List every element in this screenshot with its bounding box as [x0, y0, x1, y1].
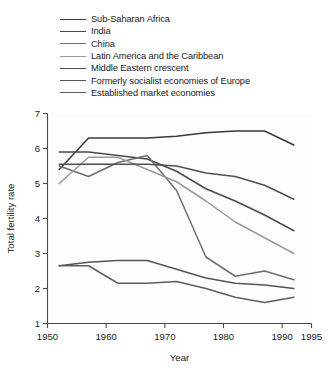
legend-item: Established market economies [60, 87, 328, 99]
legend-item: Latin America and the Caribbean [60, 50, 328, 62]
plot-area: 1234567195019601970198019901995YearTotal… [0, 100, 328, 381]
legend-line-swatch-icon [60, 68, 86, 69]
legend-line-swatch-icon [60, 80, 86, 81]
y-tick-label: 7 [35, 108, 40, 119]
legend-item: China [60, 38, 328, 50]
legend-item: Middle Eastern crescent [60, 62, 328, 74]
y-tick-label: 3 [35, 248, 40, 259]
x-tick-label: 1995 [301, 331, 322, 342]
plot-svg: 1234567195019601970198019901995YearTotal… [0, 100, 328, 381]
legend-item: Sub-Saharan Africa [60, 13, 328, 25]
legend-item-label: Latin America and the Caribbean [91, 51, 223, 61]
legend-line-swatch-icon [60, 19, 86, 20]
x-tick-label: 1960 [95, 331, 116, 342]
fertility-rate-line-chart: Sub-Saharan AfricaIndiaChinaLatin Americ… [0, 0, 328, 381]
y-tick-label: 1 [35, 318, 40, 329]
legend-item-label: China [91, 39, 115, 49]
y-axis-title: Total fertility rate [5, 184, 16, 254]
legend-item-label: Sub-Saharan Africa [91, 14, 170, 24]
legend-line-swatch-icon [60, 43, 86, 44]
legend-item-label: Formerly socialist economies of Europe [91, 76, 250, 86]
legend-line-swatch-icon [60, 92, 86, 93]
y-tick-label: 4 [35, 213, 41, 224]
legend-item: Formerly socialist economies of Europe [60, 74, 328, 86]
legend-item-label: India [91, 26, 111, 36]
x-tick-label: 1990 [271, 331, 292, 342]
legend-line-swatch-icon [60, 56, 86, 57]
x-tick-label: 1950 [37, 331, 58, 342]
chart-legend: Sub-Saharan AfricaIndiaChinaLatin Americ… [60, 13, 328, 99]
legend-item-label: Established market economies [91, 88, 215, 98]
y-tick-label: 5 [35, 178, 40, 189]
legend-item: India [60, 25, 328, 37]
y-tick-label: 2 [35, 283, 40, 294]
x-tick-label: 1970 [154, 331, 175, 342]
x-axis-title: Year [170, 352, 190, 363]
x-tick-label: 1980 [213, 331, 234, 342]
y-tick-label: 6 [35, 143, 40, 154]
legend-line-swatch-icon [60, 31, 86, 32]
legend-item-label: Middle Eastern crescent [91, 63, 188, 73]
